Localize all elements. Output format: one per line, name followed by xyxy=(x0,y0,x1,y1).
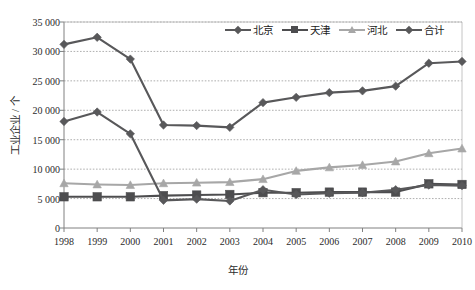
legend-label: 合计 xyxy=(424,22,444,37)
legend-item-天津[interactable]: 天津 xyxy=(282,22,330,37)
y-tick-label: 25 000 xyxy=(8,75,60,86)
legend-label: 河北 xyxy=(367,22,387,37)
y-tick-label: 0 xyxy=(8,223,60,234)
legend-label: 天津 xyxy=(310,22,330,37)
legend-swatch-triangle-icon xyxy=(339,24,365,35)
y-tick-label: 10 000 xyxy=(8,164,60,175)
legend-swatch-square-icon xyxy=(282,24,308,35)
y-tick-label: 15 000 xyxy=(8,134,60,145)
legend-item-北京[interactable]: 北京 xyxy=(225,22,273,37)
y-tick-label: 20 000 xyxy=(8,105,60,116)
legend-label: 北京 xyxy=(253,22,273,37)
legend-swatch-diamond-icon xyxy=(396,24,422,35)
y-tick-label: 30 000 xyxy=(8,46,60,57)
x-tick-label: 2010 xyxy=(439,236,475,247)
y-tick-label: 5 000 xyxy=(8,193,60,204)
legend-item-合计[interactable]: 合计 xyxy=(396,22,444,37)
y-tick-label: 35 000 xyxy=(8,17,60,28)
x-axis-title: 年份 xyxy=(0,262,475,277)
legend-item-河北[interactable]: 河北 xyxy=(339,22,387,37)
chart-legend: 北京天津河北合计 xyxy=(225,22,444,37)
legend-swatch-diamond-icon xyxy=(225,24,251,35)
line-chart: 工业企业 / 个 年份 05 00010 00015 00020 00025 0… xyxy=(0,0,475,290)
